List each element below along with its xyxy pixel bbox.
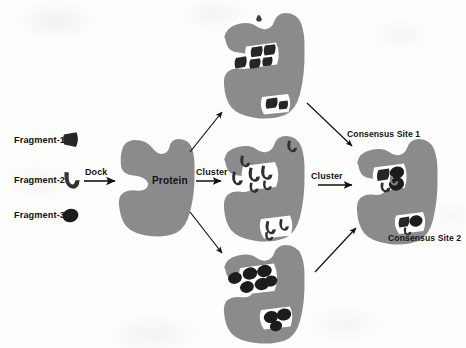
arrow-protein-to-bottom xyxy=(190,212,222,253)
protein-label: Protein xyxy=(152,176,188,186)
protein-shape xyxy=(119,139,195,236)
arrow-protein-to-top xyxy=(190,112,222,152)
cluster-1-label: Cluster xyxy=(196,168,228,177)
docked-protein-bottom xyxy=(224,245,305,344)
fragment-1-glyph xyxy=(63,132,78,147)
dock-label: Dock xyxy=(85,168,107,177)
workflow-diagram xyxy=(0,0,466,348)
consensus-protein xyxy=(357,139,438,245)
fragment-2-glyph xyxy=(64,172,79,189)
arrow-top-to-consensus xyxy=(307,103,352,146)
fragment-1-label: Fragment-1 xyxy=(14,136,65,145)
docked-protein-middle xyxy=(224,136,305,242)
consensus-site-1-label: Consensus Site 1 xyxy=(347,130,420,139)
fragment-2-label: Fragment-2 xyxy=(14,176,65,185)
cluster-2-label: Cluster xyxy=(311,172,343,181)
docked-protein-top xyxy=(224,13,305,119)
consensus-site-2-label: Consensus Site 2 xyxy=(388,234,461,243)
fragment-3-label: Fragment-3 xyxy=(14,211,65,220)
arrow-bottom-to-consensus xyxy=(315,228,356,272)
